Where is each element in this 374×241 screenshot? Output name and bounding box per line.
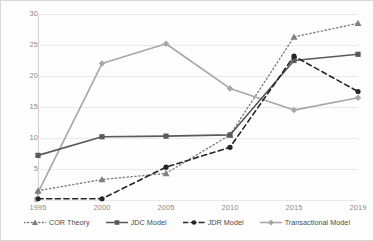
data-point <box>227 145 232 150</box>
data-point <box>163 134 168 139</box>
gridline <box>38 200 358 201</box>
y-axis-tick-label: 25 <box>14 41 38 49</box>
y-axis-tick-label: 15 <box>14 103 38 111</box>
data-point <box>99 196 104 201</box>
x-axis-tick-label: 1995 <box>18 203 58 212</box>
legend-swatch-diamond-icon <box>260 218 282 227</box>
legend-swatch-square-icon <box>106 218 128 227</box>
series-line <box>38 44 358 193</box>
legend-label: COR Theory <box>49 218 90 227</box>
data-point <box>290 33 297 39</box>
legend-label: JDR Model <box>208 218 244 227</box>
data-point <box>354 20 361 26</box>
data-point <box>355 94 362 101</box>
legend-swatch-triangle-icon <box>24 218 46 227</box>
plot-area <box>38 14 358 200</box>
legend-item-transactional-model[interactable]: Transactional Model <box>260 218 350 227</box>
legend-label: JDC Model <box>131 218 167 227</box>
x-axis-tick-label: 2005 <box>146 203 186 212</box>
data-point <box>355 89 360 94</box>
series-jdc-model <box>35 52 360 158</box>
data-point <box>291 107 298 114</box>
chart-legend: COR TheoryJDC ModelJDR ModelTransactiona… <box>0 218 374 227</box>
data-point <box>355 52 360 57</box>
x-axis-tick-label: 2010 <box>210 203 250 212</box>
series-line <box>38 54 358 155</box>
series-line <box>38 56 358 199</box>
line-chart: 051015202530 199520002005201020152019 CO… <box>0 0 374 241</box>
y-axis-tick-label: 30 <box>14 10 38 18</box>
data-point <box>35 196 40 201</box>
data-point <box>291 54 296 59</box>
series-jdr-model <box>35 54 360 202</box>
series-transactional-model <box>35 41 362 196</box>
data-point <box>35 153 40 158</box>
y-axis-tick-label: 10 <box>14 134 38 142</box>
legend-item-jdr-model[interactable]: JDR Model <box>183 218 244 227</box>
legend-item-cor-theory[interactable]: COR Theory <box>24 218 90 227</box>
data-point <box>163 165 168 170</box>
legend-label: Transactional Model <box>285 218 350 227</box>
x-axis-tick-label: 2019 <box>338 203 374 212</box>
data-point <box>227 132 232 137</box>
legend-swatch-circle-icon <box>183 218 205 227</box>
series-layer <box>38 14 358 200</box>
x-axis-tick-label: 2015 <box>274 203 314 212</box>
y-axis-tick-label: 5 <box>14 165 38 173</box>
x-axis-tick-label: 2000 <box>82 203 122 212</box>
data-point <box>99 60 106 67</box>
legend-item-jdc-model[interactable]: JDC Model <box>106 218 167 227</box>
data-point <box>99 134 104 139</box>
y-axis-tick-label: 20 <box>14 72 38 80</box>
